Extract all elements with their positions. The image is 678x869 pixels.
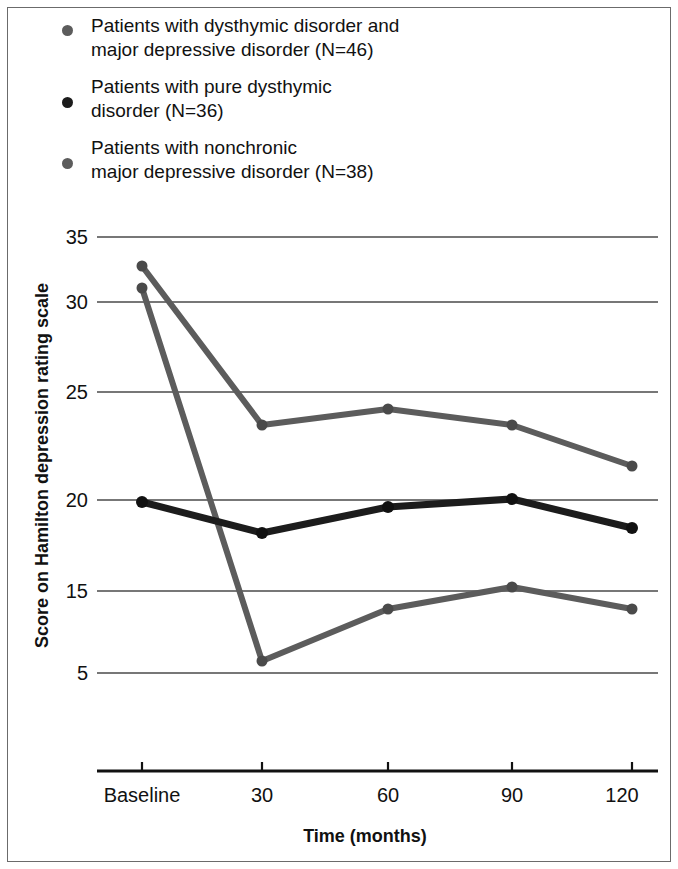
series-line-dysthymic-mdd xyxy=(142,266,632,466)
data-point xyxy=(507,420,518,431)
data-point xyxy=(383,404,394,415)
data-point xyxy=(257,656,268,667)
figure-container: Patients with dysthymic disorder and maj… xyxy=(0,0,678,869)
data-point xyxy=(382,501,394,513)
data-point xyxy=(257,420,268,431)
chart-plot-svg xyxy=(0,0,678,869)
data-point xyxy=(383,604,394,615)
data-point xyxy=(256,527,268,539)
series-nonchronic-mdd xyxy=(137,283,638,667)
plot-area: Score on Hamilton depression rating scal… xyxy=(0,0,678,869)
data-point xyxy=(137,283,148,294)
data-point xyxy=(627,461,638,472)
series-dysthymic-mdd xyxy=(137,261,638,472)
gridlines xyxy=(97,237,658,673)
data-point xyxy=(626,522,638,534)
data-point xyxy=(507,582,518,593)
data-point xyxy=(136,496,148,508)
data-point xyxy=(137,261,148,272)
data-point xyxy=(627,604,638,615)
data-point xyxy=(506,493,518,505)
